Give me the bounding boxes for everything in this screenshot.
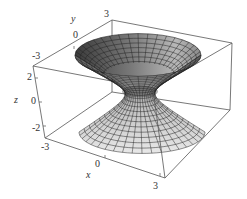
x-tick-3: 3 [153,180,158,191]
hyperboloid-surface [75,34,205,154]
x-tick-neg3: -3 [41,141,49,152]
z-axis-label: z [13,94,18,105]
z-tick-2: 2 [27,71,32,82]
y-tick-3: 3 [104,8,109,19]
y-tick-neg3: -3 [32,50,40,61]
z-tick-0: 0 [31,95,36,106]
x-axis-label: x [85,169,91,180]
hyperboloid-plot: y 3 0 -3 2 z 0 -2 -3 0 x 3 [0,0,247,199]
x-tick-0: 0 [95,158,100,169]
y-tick-0: 0 [73,29,78,40]
z-tick-neg2: -2 [32,122,40,133]
y-axis-label: y [70,13,76,24]
